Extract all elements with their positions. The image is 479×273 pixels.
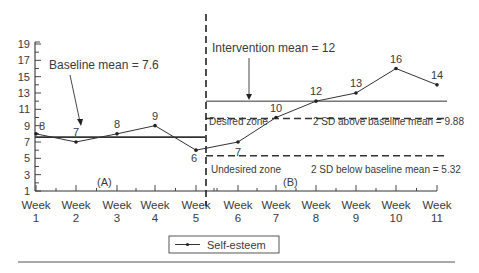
baseline-mean-label: Baseline mean = 7.6 — [49, 58, 159, 72]
x-tick-number: 11 — [431, 212, 443, 224]
undesired-zone-label: Undesired zone — [211, 164, 281, 175]
x-tick-number: 8 — [313, 212, 319, 224]
x-tick-number: 5 — [193, 212, 199, 224]
data-point-marker — [314, 99, 318, 103]
data-point-label: 14 — [431, 69, 443, 81]
phase-b-label: (B) — [283, 176, 298, 188]
legend-label: Self-esteem — [207, 239, 266, 251]
x-tick-label: Week — [223, 199, 252, 211]
y-tick-label: 1 — [24, 185, 30, 197]
data-point-label: 8 — [114, 118, 120, 130]
y-tick-label: 17 — [18, 54, 30, 66]
desired-zone-label: Desired zone — [209, 116, 268, 127]
x-tick-number: 10 — [390, 212, 403, 224]
x-tick-label: Week — [140, 199, 169, 211]
x-tick-label: Week — [61, 199, 90, 211]
data-point-marker — [153, 124, 157, 128]
x-tick-label: Week — [301, 199, 330, 211]
x-tick-label: Week — [422, 199, 451, 211]
y-tick-label: 13 — [18, 87, 30, 99]
y-tick-label: 7 — [24, 136, 30, 148]
sd-above-label: 2 SD above baseline mean = 9.88 — [313, 116, 464, 127]
data-point-marker — [115, 132, 119, 136]
arrowhead-icon — [77, 119, 83, 126]
data-point-marker — [354, 91, 358, 95]
x-tick-label: Week — [102, 199, 131, 211]
x-tick-label: Week — [381, 199, 410, 211]
x-tick-number: 1 — [33, 212, 39, 224]
data-point-marker — [394, 67, 398, 71]
x-tick-label: Week — [261, 199, 290, 211]
data-point-label: 16 — [390, 53, 402, 65]
data-point-marker — [274, 116, 278, 120]
data-point-label: 7 — [73, 126, 79, 138]
data-point-marker — [34, 132, 38, 136]
data-point-marker — [435, 83, 439, 87]
sd-below-label: 2 SD below baseline mean = 5.32 — [311, 164, 461, 175]
data-point-label: 13 — [350, 77, 362, 89]
x-tick-number: 4 — [152, 212, 159, 224]
baseline-mean-arrow — [70, 75, 80, 122]
arrowhead-icon — [246, 94, 252, 100]
single-subject-chart: 135791113151719 Week1Week2Week3Week4Week… — [0, 0, 479, 273]
y-tick-label: 9 — [24, 120, 30, 132]
data-point-label: 12 — [310, 85, 322, 97]
data-point-marker — [236, 140, 240, 144]
data-point-label: 10 — [270, 102, 282, 114]
y-tick-label: 11 — [19, 103, 30, 115]
x-tick-number: 6 — [235, 212, 241, 224]
x-tick-number: 3 — [114, 212, 120, 224]
x-tick-label: Week — [21, 199, 50, 211]
data-point-label: 7 — [235, 146, 241, 158]
x-tick-number: 2 — [73, 212, 79, 224]
y-tick-label: 15 — [18, 71, 30, 83]
y-tick-label: 19 — [18, 38, 30, 50]
intervention-mean-label: Intervention mean = 12 — [212, 41, 335, 55]
data-point-label: 6 — [191, 152, 197, 164]
x-tick-label: Week — [341, 199, 370, 211]
legend-marker-icon — [186, 243, 189, 246]
y-tick-label: 3 — [24, 169, 30, 181]
x-axis: Week1Week2Week3Week4Week5Week6Week7Week8… — [21, 185, 451, 224]
data-point-label: 9 — [152, 110, 158, 122]
legend: Self-esteem — [169, 236, 279, 253]
x-tick-number: 9 — [353, 212, 359, 224]
phase-a-label: (A) — [97, 176, 112, 188]
y-tick-label: 5 — [24, 152, 30, 164]
data-point-marker — [74, 140, 78, 144]
y-axis: 135791113151719 — [18, 38, 41, 197]
data-point-label: 8 — [39, 120, 45, 132]
x-tick-number: 7 — [273, 212, 279, 224]
